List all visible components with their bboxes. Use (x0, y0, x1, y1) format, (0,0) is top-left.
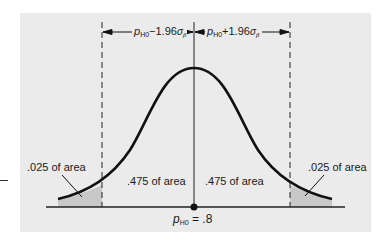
center-value: = .8 (192, 212, 212, 226)
operator-text: −1.96 (149, 25, 177, 37)
h0-subscript: H0 (180, 219, 189, 226)
dimension-label-right: pH0+1.96σp̂ (206, 26, 260, 38)
dimension-arrows (103, 30, 289, 35)
bell-curve (58, 68, 332, 199)
normal-curve-graphic (0, 0, 386, 243)
left-tail-label: .025 of area (27, 162, 86, 173)
center-value-label: pH0 = .8 (173, 213, 212, 226)
p-symbol: p (173, 212, 180, 226)
sigma-subscript: p̂ (256, 32, 259, 38)
left-tail-shade (58, 185, 102, 207)
right-tail-shade (290, 185, 332, 207)
h0-subscript: H0 (140, 31, 149, 38)
sigma-subscript: p̂ (183, 32, 186, 38)
mean-point (191, 204, 198, 211)
left-center-label: .475 of area (127, 176, 186, 187)
right-center-label: .475 of area (205, 176, 264, 187)
h0-subscript: H0 (213, 31, 222, 38)
operator-text: +1.96 (222, 25, 250, 37)
right-tail-label: .025 of area (308, 162, 367, 173)
dimension-label-left: pH0−1.96σp̂ (133, 26, 187, 38)
